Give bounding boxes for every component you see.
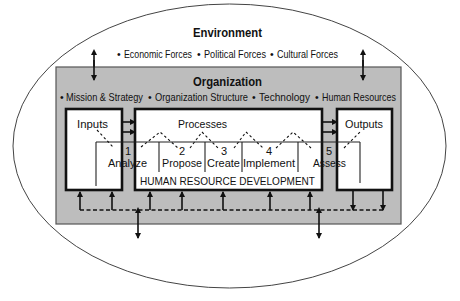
environment-force: Cultural Forces bbox=[277, 48, 338, 60]
bullet-icon: • bbox=[270, 48, 274, 60]
step-number: 3 bbox=[221, 145, 227, 157]
step-number: 5 bbox=[326, 145, 332, 157]
step-number: 4 bbox=[266, 145, 272, 157]
organization-factor: Organization Structure bbox=[155, 91, 248, 103]
step-label-implement: Implement bbox=[243, 157, 295, 169]
bullet-icon: • bbox=[252, 91, 256, 103]
processes-label: Processes bbox=[178, 118, 227, 130]
bullet-icon: • bbox=[60, 91, 64, 103]
organization-factors: • Mission & Strategy • Organization Stru… bbox=[60, 91, 396, 103]
environment-force: Political Forces bbox=[204, 48, 266, 60]
organization-factor: Mission & Strategy bbox=[66, 91, 144, 103]
bullet-icon: • bbox=[315, 91, 319, 103]
environment-force: Economic Forces bbox=[124, 48, 192, 60]
hrd-systems-diagram: Environment • Economic Forces • Politica… bbox=[0, 0, 460, 301]
bullet-icon: • bbox=[197, 48, 201, 60]
bullet-icon: • bbox=[117, 48, 121, 60]
step-label-propose: Propose bbox=[162, 157, 202, 169]
bullet-icon: • bbox=[148, 91, 152, 103]
inputs-label: Inputs bbox=[77, 118, 108, 130]
step-label-assess: Assess bbox=[313, 157, 346, 169]
outputs-label: Outputs bbox=[345, 118, 383, 130]
step-label-analyze: Analyze bbox=[108, 157, 147, 169]
organization-factor: Technology bbox=[259, 91, 311, 103]
step-number: 1 bbox=[125, 145, 131, 157]
environment-title: Environment bbox=[193, 25, 263, 40]
step-number: 2 bbox=[179, 145, 185, 157]
step-label-create: Create bbox=[207, 157, 240, 169]
environment-forces: • Economic Forces • Political Forces • C… bbox=[117, 48, 338, 60]
hrd-label: HUMAN RESOURCE DEVELOPMENT bbox=[140, 175, 315, 187]
organization-factor: Human Resources bbox=[322, 91, 396, 103]
organization-title: Organization bbox=[193, 74, 262, 89]
